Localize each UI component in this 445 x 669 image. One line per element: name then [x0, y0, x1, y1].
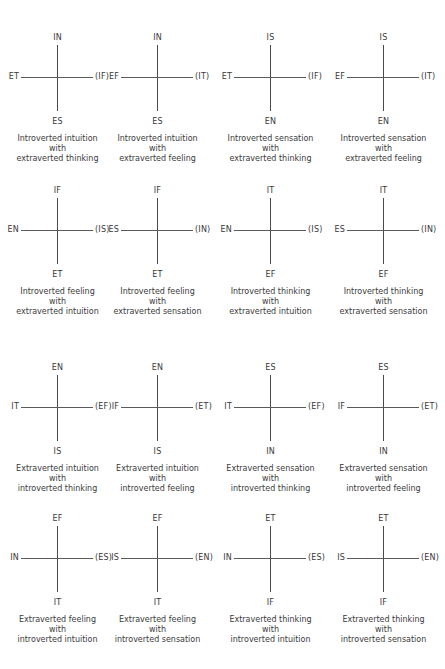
horizontal-axis-line: [347, 407, 419, 408]
inferior-function-label: ET: [103, 270, 212, 280]
dominant-function-label: EN: [3, 363, 112, 373]
diagram-caption: Extraverted thinkingwithintroverted sens…: [319, 615, 445, 645]
vertical-axis-line: [383, 198, 384, 264]
function-diagram: ENIF(ET)ISExtraverted intuitionwithintro…: [103, 363, 213, 503]
dominant-function-label: IN: [3, 33, 112, 43]
caption-line: extraverted intuition: [206, 307, 335, 317]
tertiary-function-label: (EN): [421, 553, 439, 563]
caption-line: with: [206, 474, 335, 484]
diagram-caption: Extraverted feelingwithintroverted sensa…: [93, 615, 222, 645]
horizontal-axis-line: [121, 407, 193, 408]
diagram-caption: Introverted sensationwithextraverted fee…: [319, 134, 445, 164]
vertical-axis-line: [157, 45, 158, 111]
tertiary-function-label: (IT): [195, 72, 209, 82]
caption-line: with: [206, 144, 335, 154]
tertiary-function-label: (EN): [195, 553, 213, 563]
dominant-function-label: EN: [103, 363, 212, 373]
tertiary-function-label: (IS): [308, 225, 322, 235]
auxiliary-function-label: ES: [108, 225, 119, 235]
horizontal-axis-line: [21, 77, 93, 78]
vertical-axis-line: [383, 526, 384, 592]
caption-line: with: [319, 144, 445, 154]
function-diagram: ETIN(ES)IFExtraverted thinkingwithintrov…: [216, 514, 326, 654]
auxiliary-function-label: EN: [221, 225, 232, 235]
auxiliary-function-label: IF: [338, 402, 345, 412]
auxiliary-function-label: ET: [222, 72, 232, 82]
caption-line: with: [319, 297, 445, 307]
inferior-function-label: IS: [103, 447, 212, 457]
function-diagram: ITES(IN)EFIntroverted thinkingwithextrav…: [329, 186, 439, 326]
auxiliary-function-label: IN: [10, 553, 19, 563]
caption-line: with: [319, 625, 445, 635]
caption-line: Introverted sensation: [319, 134, 445, 144]
caption-line: Extraverted sensation: [319, 464, 445, 474]
tertiary-function-label: (ET): [195, 402, 212, 412]
dominant-function-label: IF: [3, 186, 112, 196]
dominant-function-label: ET: [216, 514, 325, 524]
caption-line: with: [206, 297, 335, 307]
vertical-axis-line: [270, 526, 271, 592]
auxiliary-function-label: EF: [109, 72, 119, 82]
inferior-function-label: IS: [3, 447, 112, 457]
inferior-function-label: IN: [329, 447, 438, 457]
caption-line: Introverted thinking: [319, 287, 445, 297]
horizontal-axis-line: [121, 230, 193, 231]
diagram-caption: Extraverted sensationwithintroverted fee…: [319, 464, 445, 494]
caption-line: with: [93, 474, 222, 484]
caption-line: Extraverted sensation: [206, 464, 335, 474]
dominant-function-label: IS: [216, 33, 325, 43]
caption-line: Introverted intuition: [93, 134, 222, 144]
caption-line: introverted thinking: [206, 484, 335, 494]
auxiliary-function-label: IT: [11, 402, 19, 412]
inferior-function-label: IF: [329, 598, 438, 608]
dominant-function-label: ET: [329, 514, 438, 524]
function-diagram: EFIS(EN)ITExtraverted feelingwithintrove…: [103, 514, 213, 654]
function-diagram: ISET(IF)ENIntroverted sensationwithextra…: [216, 33, 326, 173]
caption-line: introverted feeling: [319, 484, 445, 494]
vertical-axis-line: [57, 45, 58, 111]
function-diagram: INEF(IT)ESIntroverted intuitionwithextra…: [103, 33, 213, 173]
inferior-function-label: IT: [103, 598, 212, 608]
auxiliary-function-label: IT: [224, 402, 232, 412]
caption-line: extraverted sensation: [319, 307, 445, 317]
vertical-axis-line: [157, 198, 158, 264]
dominant-function-label: IN: [103, 33, 212, 43]
tertiary-function-label: (IN): [195, 225, 210, 235]
horizontal-axis-line: [347, 230, 419, 231]
diagram-caption: Extraverted thinkingwithintroverted intu…: [206, 615, 335, 645]
caption-line: with: [206, 625, 335, 635]
horizontal-axis-line: [21, 558, 93, 559]
caption-line: introverted intuition: [206, 635, 335, 645]
inferior-function-label: ET: [3, 270, 112, 280]
vertical-axis-line: [383, 375, 384, 441]
horizontal-axis-line: [21, 230, 93, 231]
inferior-function-label: IF: [216, 598, 325, 608]
tertiary-function-label: (IF): [308, 72, 322, 82]
inferior-function-label: ES: [3, 117, 112, 127]
inferior-function-label: IN: [216, 447, 325, 457]
diagram-caption: Introverted intuitionwithextraverted fee…: [93, 134, 222, 164]
dominant-function-label: EF: [103, 514, 212, 524]
vertical-axis-line: [57, 375, 58, 441]
dominant-function-label: EF: [3, 514, 112, 524]
dominant-function-label: IT: [216, 186, 325, 196]
diagram-caption: Extraverted sensationwithintroverted thi…: [206, 464, 335, 494]
dominant-function-label: IF: [103, 186, 212, 196]
auxiliary-function-label: IS: [111, 553, 119, 563]
caption-line: Extraverted intuition: [93, 464, 222, 474]
inferior-function-label: ES: [103, 117, 212, 127]
horizontal-axis-line: [234, 407, 306, 408]
caption-line: with: [93, 144, 222, 154]
inferior-function-label: EN: [329, 117, 438, 127]
tertiary-function-label: (ET): [421, 402, 438, 412]
caption-line: introverted feeling: [93, 484, 222, 494]
auxiliary-function-label: ET: [9, 72, 19, 82]
auxiliary-function-label: EN: [8, 225, 19, 235]
tertiary-function-label: (ES): [308, 553, 325, 563]
caption-line: extraverted feeling: [93, 154, 222, 164]
caption-line: Introverted thinking: [206, 287, 335, 297]
caption-line: Extraverted thinking: [206, 615, 335, 625]
function-diagram: ISEF(IT)ENIntroverted sensationwithextra…: [329, 33, 439, 173]
inferior-function-label: EF: [329, 270, 438, 280]
diagram-caption: Introverted thinkingwithextraverted intu…: [206, 287, 335, 317]
